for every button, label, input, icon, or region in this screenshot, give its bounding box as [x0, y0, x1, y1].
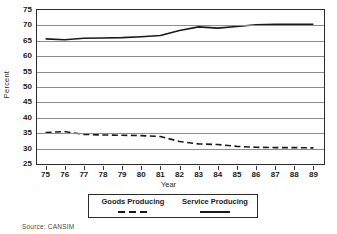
y-tick-60: 60 — [8, 52, 32, 60]
y-tick-55: 55 — [8, 68, 32, 76]
y-tick-65: 65 — [8, 37, 32, 45]
line-goods-producing — [46, 132, 314, 148]
legend-swatch-solid-line — [200, 211, 230, 213]
legend-item-service-producing: Service Producing — [173, 198, 257, 213]
y-axis-tick-labels: 7570656055504540353025 — [8, 0, 32, 234]
y-tick-25: 25 — [8, 160, 32, 168]
gridline-40 — [37, 118, 324, 119]
y-tick-30: 30 — [8, 145, 32, 153]
plot-area — [36, 9, 325, 165]
gridline-65 — [37, 41, 324, 42]
gridline-70 — [37, 25, 324, 26]
gridline-45 — [37, 102, 324, 103]
y-tick-75: 75 — [8, 6, 32, 14]
x-axis-title: Year — [0, 180, 337, 189]
chart-legend: Goods Producing Service Producing — [88, 194, 258, 218]
gridline-55 — [37, 72, 324, 73]
legend-label-goods-producing: Goods Producing — [91, 198, 175, 206]
chart-figure: Percent 7570656055504540353025 757677787… — [0, 0, 337, 234]
legend-label-service-producing: Service Producing — [173, 198, 257, 206]
y-tick-35: 35 — [8, 129, 32, 137]
y-tick-50: 50 — [8, 83, 32, 91]
source-note: Source: CANSIM — [22, 223, 74, 230]
gridline-50 — [37, 87, 324, 88]
gridline-35 — [37, 133, 324, 134]
line-service-producing — [46, 24, 314, 39]
legend-item-goods-producing: Goods Producing — [91, 198, 175, 213]
gridline-60 — [37, 56, 324, 57]
x-tick-89: 89 — [302, 171, 324, 179]
y-tick-40: 40 — [8, 114, 32, 122]
legend-swatch-dashed-line — [118, 211, 148, 213]
gridline-30 — [37, 149, 324, 150]
y-tick-70: 70 — [8, 21, 32, 29]
y-tick-45: 45 — [8, 98, 32, 106]
